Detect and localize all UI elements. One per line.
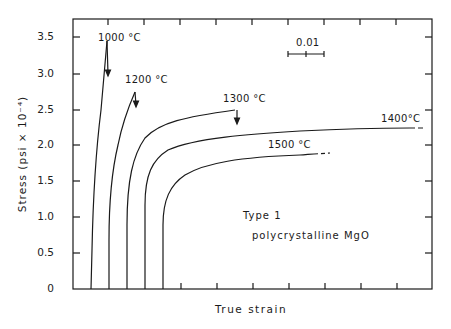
y-tick-label-3.5: 3.5 [20, 30, 54, 42]
scale-bar [288, 51, 324, 57]
label-1500C: 1500 °C [268, 139, 311, 150]
y-axis-title: Stress (psi × 10⁻⁴) [16, 94, 28, 214]
label-1300C: 1300 °C [223, 93, 266, 104]
right-axis-ticks [425, 37, 432, 253]
annotation-material: polycrystalline MgO [252, 230, 370, 241]
y-tick-label-0: 0 [20, 282, 54, 294]
curve-1000C [91, 41, 107, 289]
top-axis-ticks [108, 19, 396, 25]
curve-1200C [109, 92, 135, 289]
annotation-type: Type 1 [243, 210, 282, 221]
x-axis-title: True strain [215, 303, 287, 315]
y-axis-ticks [73, 37, 80, 253]
y-tick-label-3.0: 3.0 [20, 67, 54, 79]
label-1400C: 1400°C [381, 113, 420, 124]
curve-1500C [163, 154, 314, 289]
fracture-arrow-1300C [235, 110, 240, 124]
scale-bar-label: 0.01 [296, 37, 319, 48]
curve-1500C-dashed [314, 153, 330, 154]
curve-1400C [145, 128, 410, 289]
label-1200C: 1200 °C [125, 74, 168, 85]
plot-area [0, 0, 451, 329]
y-tick-label-0.5: 0.5 [20, 246, 54, 258]
label-1000C: 1000 °C [98, 32, 141, 43]
x-axis-ticks [181, 283, 397, 289]
curve-1300C [127, 110, 235, 289]
